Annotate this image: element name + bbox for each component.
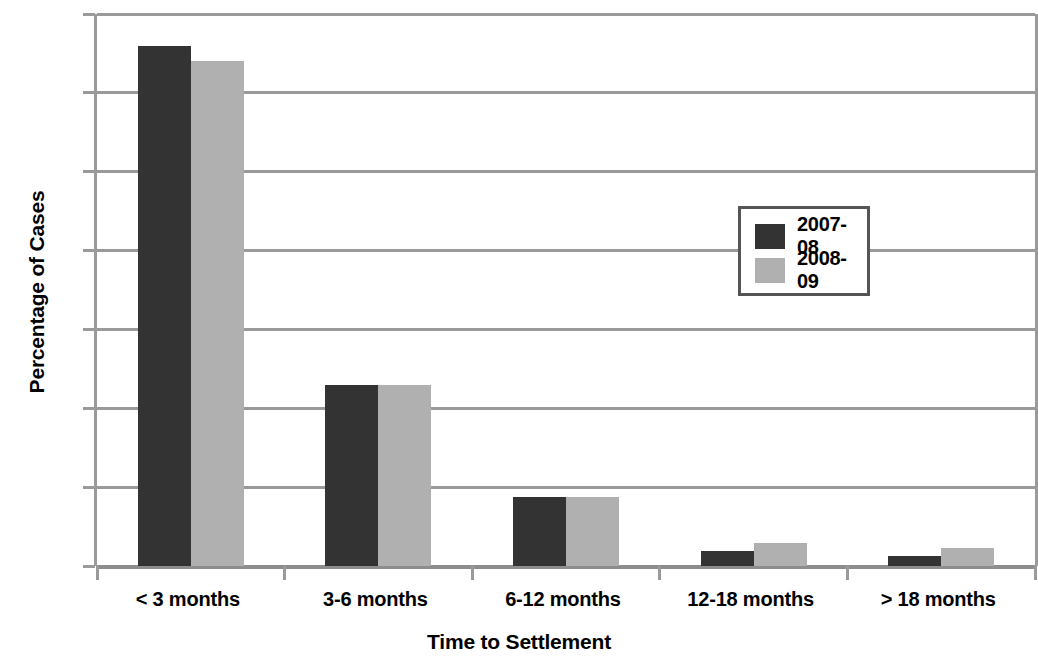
x-tick-mark-end-0: [96, 566, 99, 580]
gridline-70: [97, 13, 1035, 16]
y-tick-mark-50: [83, 170, 95, 173]
x-tick-mark-4: [846, 566, 849, 580]
bar-2-1: [191, 61, 244, 566]
bar-1-2: [325, 385, 378, 566]
x-axis-title: Time to Settlement: [0, 630, 1038, 654]
x-tick-mark-2: [471, 566, 474, 580]
x-label-2: 3-6 months: [282, 588, 470, 611]
chart-legend: 2007-08 2008-09: [738, 206, 870, 296]
bar-chart-figure: Percentage of Cases 010203040506070 < 3 …: [0, 0, 1038, 661]
bar-2-4: [754, 543, 807, 566]
bar-1-5: [888, 556, 941, 566]
legend-swatch-icon-2007-08: [755, 224, 785, 249]
y-tick-mark-40: [83, 249, 95, 252]
bar-1-4: [701, 551, 754, 566]
bar-2-2: [378, 385, 431, 566]
bar-1-1: [138, 46, 191, 566]
y-tick-mark-20: [83, 407, 95, 410]
x-label-1: < 3 months: [94, 588, 282, 611]
bar-1-3: [513, 497, 566, 566]
y-axis-title: Percentage of Cases: [25, 162, 49, 422]
legend-swatch-icon-2008-09: [755, 258, 785, 283]
x-tick-mark-3: [658, 566, 661, 580]
y-tick-mark-30: [83, 328, 95, 331]
bar-2-5: [941, 548, 994, 566]
x-label-5: > 18 months: [844, 588, 1032, 611]
x-tick-mark-1: [283, 566, 286, 580]
x-tick-mark-end-1: [1034, 566, 1037, 580]
legend-label-series-2: 2008-09: [797, 247, 867, 293]
y-tick-mark-60: [83, 91, 95, 94]
y-tick-mark-70: [83, 13, 95, 16]
plot-area: [94, 14, 1038, 566]
legend-item-series-2: 2008-09: [755, 253, 867, 287]
bar-2-3: [566, 497, 619, 566]
y-tick-mark-0: [83, 565, 95, 568]
y-tick-mark-10: [83, 486, 95, 489]
x-label-4: 12-18 months: [657, 588, 845, 611]
x-label-3: 6-12 months: [469, 588, 657, 611]
